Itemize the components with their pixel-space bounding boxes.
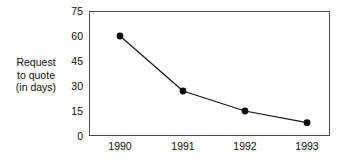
- y-axis-title-line-1: Request: [8, 56, 64, 69]
- y-tick-label-45: 45: [59, 56, 83, 66]
- y-axis-title-line-3: (in days): [8, 81, 64, 94]
- y-tick-label-15: 15: [59, 106, 83, 116]
- line-chart-figure: Request to quote (in days) 0 15 30 45 60…: [0, 0, 346, 164]
- y-tick-label-60: 60: [59, 31, 83, 41]
- y-tick-label-30: 30: [59, 81, 83, 91]
- y-tick-label-75: 75: [59, 6, 83, 16]
- x-tick-label-1990: 1990: [97, 140, 143, 152]
- plot-area-frame: [89, 11, 330, 136]
- y-axis-title-line-2: to quote: [8, 69, 64, 82]
- x-tick-label-1993: 1993: [284, 140, 330, 152]
- y-tick-label-0: 0: [59, 131, 83, 141]
- y-axis-title: Request to quote (in days): [8, 56, 64, 94]
- x-tick-label-1992: 1992: [222, 140, 268, 152]
- x-tick-label-1991: 1991: [160, 140, 206, 152]
